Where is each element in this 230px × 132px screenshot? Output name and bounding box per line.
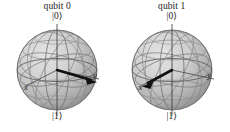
axis-x-label-qubit-0: x — [24, 83, 28, 92]
bloch-panel-qubit-1: qubit 1 |0⟩ |1⟩ — [115, 0, 230, 132]
panel-title-qubit-1: qubit 1 — [115, 1, 230, 11]
bloch-sphere-graphic-qubit-1 — [124, 22, 220, 118]
bloch-panel-qubit-0: qubit 0 |0⟩ |1⟩ — [0, 0, 115, 132]
ket-zero-label-qubit-0: |0⟩ — [0, 11, 115, 21]
ket-zero-label-qubit-1: |0⟩ — [115, 11, 230, 21]
axis-x-label-qubit-1: x — [139, 83, 143, 92]
panel-title-qubit-0: qubit 0 — [0, 1, 115, 11]
axis-y-label-qubit-0: y — [93, 71, 97, 80]
bloch-sphere-figure: qubit 0 |0⟩ |1⟩ — [0, 0, 229, 132]
axis-y-label-qubit-1: y — [208, 71, 212, 80]
bloch-sphere-graphic-qubit-0 — [9, 22, 105, 118]
